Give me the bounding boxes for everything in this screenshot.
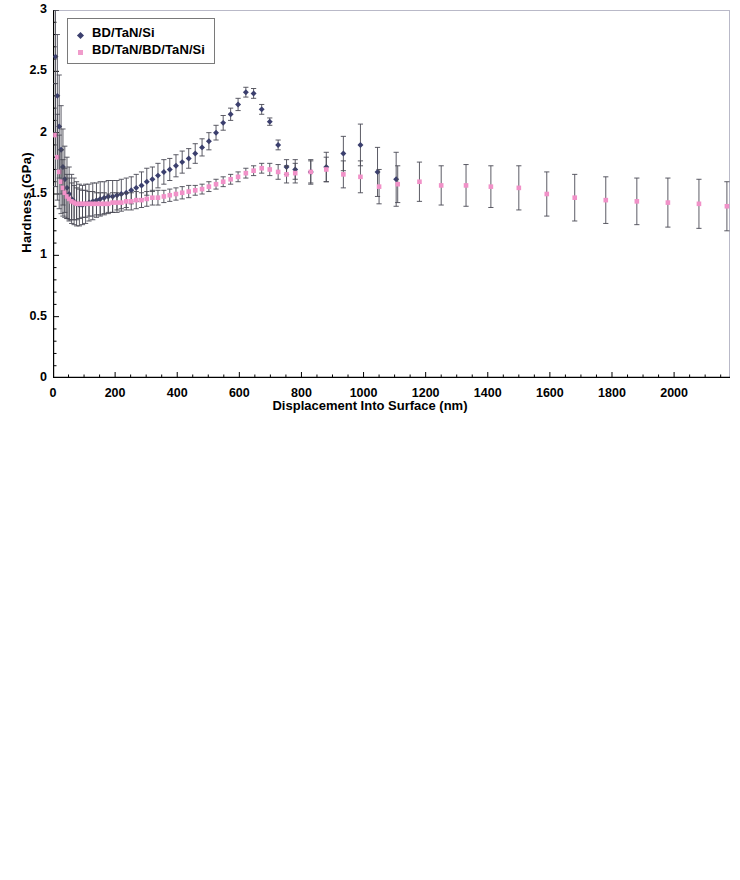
legend-label: BD/TaN/BD/TaN/Si <box>92 42 205 57</box>
y-tick-label: 1.5 <box>5 186 47 200</box>
y-tick-label: 1 <box>5 247 47 261</box>
x-tick-label: 400 <box>147 386 207 400</box>
y-tick-label: 0 <box>5 370 47 384</box>
x-tick-label: 0 <box>23 386 83 400</box>
x-tick-label: 1600 <box>520 386 580 400</box>
legend-item: BD/TaN/BD/TaN/Si <box>75 41 205 58</box>
hardness-chart-panel: Hardness (GPa) Displacement Into Surface… <box>0 0 740 432</box>
y-tick-label: 2 <box>5 125 47 139</box>
legend-label: BD/TaN/Si <box>92 25 155 40</box>
x-tick-label: 200 <box>85 386 145 400</box>
x-tick-label: 1000 <box>334 386 394 400</box>
legend-item: BD/TaN/Si <box>75 24 205 41</box>
x-tick-label: 1400 <box>458 386 518 400</box>
diamond-marker-icon <box>75 24 86 42</box>
y-tick-label: 3 <box>5 2 47 16</box>
hardness-x-axis-title: Displacement Into Surface (nm) <box>0 398 740 413</box>
x-tick-label: 800 <box>271 386 331 400</box>
x-tick-label: 1200 <box>396 386 456 400</box>
square-marker-icon <box>75 41 86 59</box>
y-tick-label: 0.5 <box>5 309 47 323</box>
x-tick-label: 2000 <box>644 386 704 400</box>
chart-legend: BD/TaN/SiBD/TaN/BD/TaN/Si <box>67 18 215 64</box>
x-tick-label: 600 <box>209 386 269 400</box>
series-pink <box>53 84 729 231</box>
modulus-chart-panel: Elastic modulus (GPa) Displacement Into … <box>0 432 740 880</box>
hardness-plot-area <box>53 10 730 378</box>
x-tick-label: 1800 <box>582 386 642 400</box>
y-tick-label: 2.5 <box>5 63 47 77</box>
